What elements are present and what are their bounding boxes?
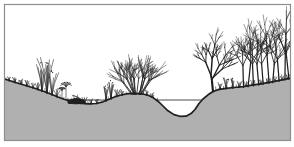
- figure-illustration: [0, 0, 294, 147]
- tall-grass-clump: [104, 86, 108, 101]
- bushy-shrub: [107, 55, 168, 95]
- sapling-thicket: [227, 7, 294, 88]
- terrain-cross-section-drawing: [0, 0, 294, 147]
- tall-grass-clump: [107, 80, 113, 99]
- tall-grass-clump: [223, 77, 229, 88]
- low-bush-clump: [67, 95, 85, 104]
